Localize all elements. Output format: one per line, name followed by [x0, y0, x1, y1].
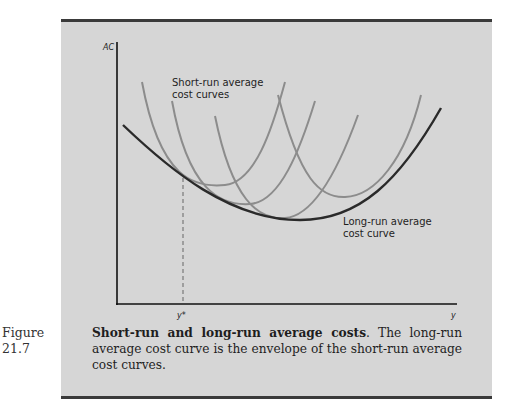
long-run-label-line1: Long-run average: [343, 216, 432, 227]
figure-number-line1: Figure: [2, 325, 44, 341]
caption-title: Short-run and long-run average costs: [92, 326, 366, 340]
y-axis-label: AC: [102, 43, 114, 52]
long-run-label-line2: cost curve: [343, 228, 395, 239]
short-run-curve-2: [172, 101, 315, 204]
figure-caption: Short-run and long-run average costs. Th…: [92, 325, 462, 373]
figure-number: Figure 21.7: [2, 325, 44, 357]
short-run-label-line1: Short-run average: [172, 77, 263, 88]
short-run-label-line2: cost curves: [172, 89, 229, 100]
figure-number-line2: 21.7: [2, 341, 44, 357]
x-axis-label: y: [450, 311, 456, 320]
x-tick-label-ystar: y*: [176, 311, 186, 320]
